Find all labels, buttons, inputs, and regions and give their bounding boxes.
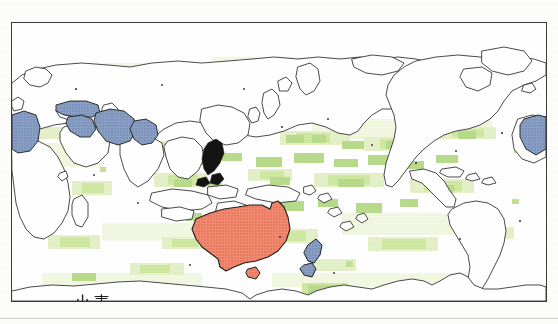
world-map-panel: 小麦 [11, 22, 547, 302]
turkey-region [56, 101, 100, 117]
figure-page: 小麦 [0, 0, 558, 324]
scan-artifact-line [0, 318, 558, 319]
world-map-graphic [12, 23, 546, 301]
figure-caption: 小麦 [74, 295, 112, 302]
map-canvas [12, 23, 546, 301]
